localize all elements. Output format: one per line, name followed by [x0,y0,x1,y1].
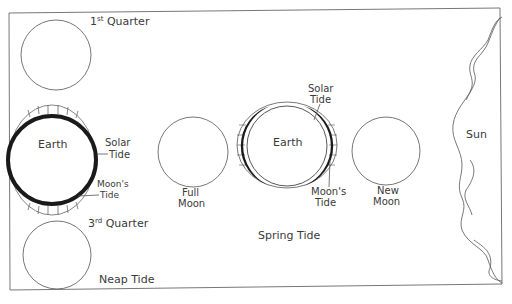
full-moon [158,117,228,187]
neap-earth-label: Earth [38,138,68,151]
neap-solar-tide-label-1: Solar [105,137,131,148]
spring-moon-leader [329,160,330,187]
neap-earth [8,105,96,215]
full-moon-label-1: Full [182,187,199,198]
first-quarter-label: 1st Quarter [90,15,150,28]
new-moon-label-2: Moon [373,196,400,207]
first-quarter-moon [21,20,91,90]
spring-moons-tide-label-1: Moon's [311,186,346,197]
neap-tide-title: Neap Tide [99,273,155,286]
new-moon-label-1: New [377,185,399,196]
third-quarter-label: 3rd Quarter [88,217,149,230]
spring-tide-title: Spring Tide [258,229,320,242]
sun-label: Sun [466,128,487,141]
neap-solar-tide-label-2: Tide [108,149,130,160]
spring-solar-tide-label-1: Solar [308,83,334,94]
neap-moons-tide-label-1: Moon's [97,179,129,189]
tides-diagram: 1st Quarter Earth Solar Tide Moon's Tide… [0,0,512,304]
spring-solar-tide-label-2: Tide [309,94,331,105]
neap-moons-tide-label-2: Tide [99,190,119,200]
full-moon-label-2: Moon [178,198,205,209]
third-quarter-moon [23,221,91,289]
sun-edge [453,17,502,283]
spring-earth-label: Earth [273,136,303,149]
new-moon [352,117,420,185]
spring-moons-tide-label-2: Tide [314,197,336,208]
